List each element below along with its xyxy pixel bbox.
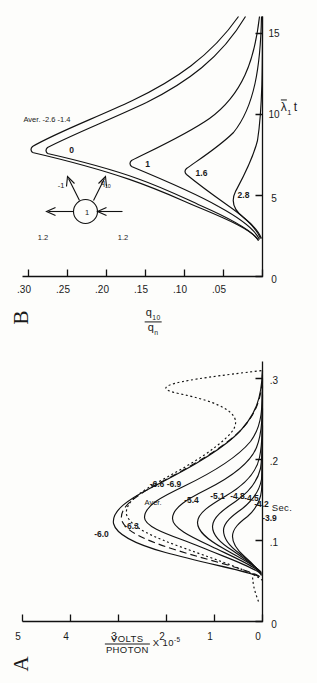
panel-b-yaxis-numerator: q10 [144, 307, 161, 322]
panel-a-ytick-0: 0 [255, 631, 261, 642]
panel-b-inset-label-bottom-left: 1.2 [117, 232, 127, 241]
panel-b-yaxis-fraction: q10 qn [144, 307, 161, 336]
panel-b-ytick-10: .10 [173, 284, 187, 295]
panel-b-curve-label-1-6: 1.6 [195, 167, 207, 177]
panel-b-ytick-15: .15 [134, 284, 148, 295]
panel-a-letter: A [8, 655, 33, 671]
panel-b-letter: B [8, 309, 33, 324]
panel-b-inset-label-top-left: 1.2 [37, 232, 47, 241]
rotated-figure-canvas: A [0, 0, 317, 683]
panel-a-xtick-3: .3 [269, 374, 277, 385]
panel-a-ytick-5: 5 [15, 631, 21, 642]
panel-a-curve-label-5-4: -5.4 [184, 495, 199, 505]
panel-b-ytick-05: .05 [212, 284, 226, 295]
panel-a-xaxis-title: Sec. [271, 501, 292, 512]
panel-a-yaxis-title: VOLTS PHOTON X 10-5 [104, 633, 180, 653]
panel-a-curve-label-4-2: -4.2 [254, 499, 269, 509]
panel-b-xtick-0: 0 [271, 274, 277, 285]
panel-b-inset-label-bottom-right: q10 [100, 178, 110, 189]
panel-a: A [0, 338, 317, 683]
panel-b-curve-label-aver: Aver. -2.6 -1.4 [23, 114, 70, 123]
panel-b-inset-label-top-right: -1 [57, 180, 64, 189]
panel-b-xtick-10: 10 [268, 109, 279, 120]
panel-a-curve-label-6-6-6-9: -6.6 -6.9 [149, 478, 181, 488]
panel-a-xtick-0: 0 [271, 619, 277, 630]
panel-b-xaxis-sub: 1 [287, 107, 292, 116]
panel-b-xaxis-lambda: λ [280, 99, 286, 114]
panel-a-ytick-4: 4 [63, 631, 69, 642]
panel-a-curve-label-4-8: -4.8 [230, 491, 245, 501]
figure-page: A [0, 0, 317, 683]
panel-b-yaxis-num-q: q [145, 306, 152, 318]
panel-b-yaxis-denominator: qn [144, 322, 161, 336]
panel-a-xtick-2: .2 [269, 455, 277, 466]
panel-b-xaxis-t: t [291, 100, 297, 114]
panel-b-inset-label-center: 1 [84, 207, 88, 216]
panel-b-xtick-5: 5 [271, 193, 277, 204]
panel-b-inset-q-sub: 10 [104, 182, 110, 188]
panel-a-ytick-1: 1 [207, 631, 213, 642]
panel-a-curve-label-6-3: -6.3 [124, 521, 139, 531]
panel-b-xtick-15: 15 [268, 28, 279, 39]
panel-a-curve-label-3-9: -3.9 [262, 513, 277, 523]
panel-b: B [0, 0, 317, 338]
panel-b-xaxis-title: λ1t [280, 99, 297, 116]
panel-b-yaxis-title: q10 qn [144, 307, 161, 336]
panel-b-yaxis-den-q: q [147, 321, 154, 333]
panel-a-yaxis-fraction: VOLTS PHOTON [104, 633, 149, 653]
panel-b-curve-label-1: 1 [145, 159, 150, 169]
panel-b-ytick-25: .25 [56, 284, 70, 295]
panel-a-xtick-1: .1 [269, 536, 277, 547]
panel-a-yaxis-multiplier: X 10 [152, 637, 173, 648]
panel-b-ytick-30: .30 [17, 284, 31, 295]
panel-b-yaxis-den-sub: n [154, 328, 158, 335]
panel-a-curve-label-5-1: -5.1 [210, 491, 225, 501]
panel-b-curve-label-2-8: 2.8 [237, 189, 249, 199]
panel-a-yaxis-numerator: VOLTS [104, 633, 149, 644]
panel-b-yaxis-num-sub: 10 [152, 313, 160, 320]
panel-a-yaxis-exponent: -5 [173, 636, 180, 643]
panel-a-curve-label-aver: Aver. [144, 497, 161, 506]
panel-b-curve-label-0: 0 [69, 145, 74, 155]
panel-a-curve-label-6-0: -6.0 [94, 529, 109, 539]
panel-b-ytick-20: .20 [95, 284, 109, 295]
panel-a-yaxis-denominator: PHOTON [104, 644, 149, 654]
